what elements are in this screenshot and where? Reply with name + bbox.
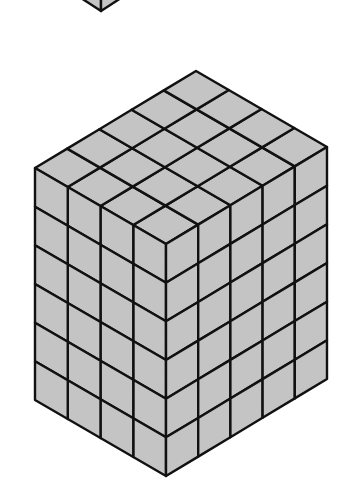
partial-left-face — [81, 0, 101, 11]
cube-prism-diagram — [0, 0, 356, 478]
cube-prism — [35, 71, 327, 476]
partial-cube-top — [81, 0, 121, 11]
partial-right-face — [101, 0, 121, 11]
